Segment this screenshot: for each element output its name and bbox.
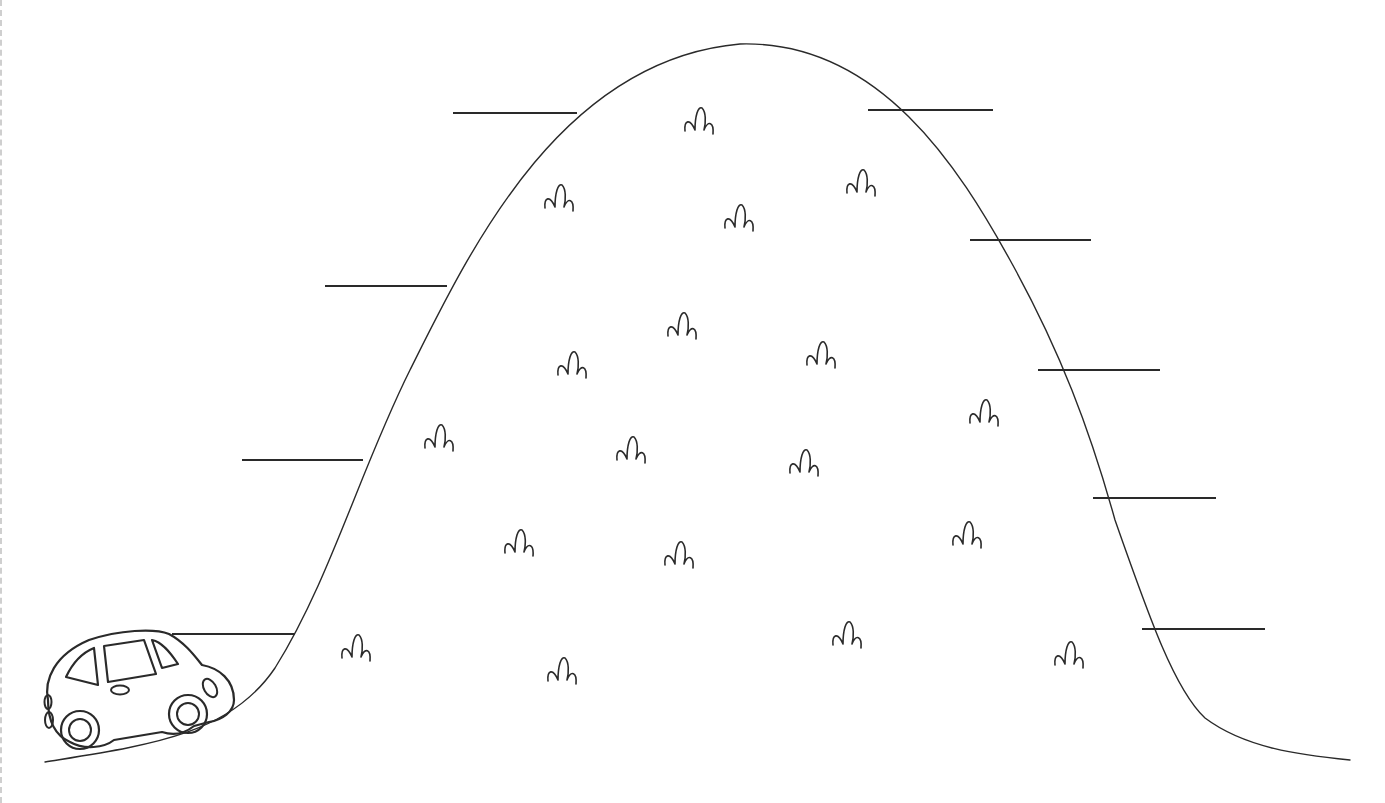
grass-tuft-icon [685, 108, 713, 134]
grass-tuft-icon [725, 205, 753, 231]
grass-tuft-icon [953, 522, 981, 548]
car-icon [45, 631, 235, 749]
grass-tuft-icon [558, 352, 586, 378]
grass-tuft-icon [545, 185, 573, 211]
grass-tuft-icon [668, 313, 696, 339]
grass-tuft-icon [807, 342, 835, 368]
grass-tuft-icon [790, 450, 818, 476]
grass-tuft-icon [1055, 642, 1083, 668]
grass-tuft-icon [665, 542, 693, 568]
grass-tuft-icon [425, 425, 453, 451]
grass-tuft-icon [847, 170, 875, 196]
worksheet-canvas [0, 0, 1385, 803]
answer-lines [172, 110, 1265, 634]
hill-diagram [0, 0, 1385, 803]
grass-tuft-icon [548, 658, 576, 684]
grass-tuft-icon [505, 530, 533, 556]
grass-tuft-icon [833, 622, 861, 648]
grass-tuft-icon [342, 635, 370, 661]
hill-outline [45, 44, 1350, 762]
grass-tuft-icon [970, 400, 998, 426]
grass-tuft-icon [617, 437, 645, 463]
grass-tufts [342, 108, 1083, 684]
